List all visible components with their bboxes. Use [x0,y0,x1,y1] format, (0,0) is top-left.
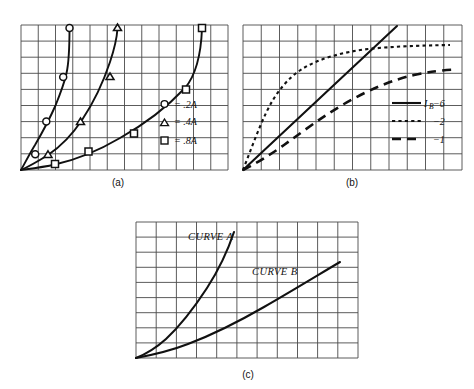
legend-circle-marker [161,101,168,108]
square-marker [85,148,92,155]
panel-c-chart: CURVE A CURVE B [110,200,366,370]
panel-c: CURVE A CURVE B [110,200,366,370]
panel-a-chart: = .2A = .4A = .8A [0,0,236,178]
panel-b-grid [243,25,462,170]
panel-a-caption: (a) [88,177,148,188]
figure-root: = .2A = .4A = .8A (a) [0,0,474,389]
square-marker [131,130,138,137]
curve-a-line [136,232,234,358]
legend-label-ib-main: I [423,98,428,109]
circle-marker [60,74,67,81]
legend-square-marker [161,137,168,144]
curve-b-label: CURVE B [252,266,298,277]
square-marker [199,25,206,32]
panel-b: I B −6 −2 −1 [236,0,474,178]
curve-08a-markers [52,25,206,168]
circle-marker [66,25,73,32]
panel-c-grid [136,222,358,358]
panel-a-legend [161,101,169,144]
curve-02a [21,29,70,171]
panel-c-caption: (c) [218,369,278,380]
panel-b-caption: (b) [322,177,382,188]
legend-label-02a: = .2A [174,99,198,110]
legend-label-ib-tail: −6 [433,98,445,109]
circle-marker [32,151,39,158]
legend-label-minus-1: −1 [433,134,445,145]
curve-b-line [136,262,340,358]
triangle-marker [44,151,52,158]
legend-label-08a: = .8A [174,135,198,146]
circle-marker [43,118,50,125]
panel-b-legend [392,103,421,139]
panel-a-legend-text: = .2A = .4A = .8A [174,99,198,147]
legend-label-04a: = .4A [174,116,198,127]
panel-a: = .2A = .4A = .8A [0,0,236,178]
panel-a-grid [21,25,228,170]
square-marker [52,161,59,168]
panel-b-chart: I B −6 −2 −1 [236,0,474,178]
legend-triangle-marker [161,119,169,126]
curve-minus-1 [243,70,456,171]
legend-label-minus-2: −2 [433,116,445,127]
curve-a-label: CURVE A [188,231,233,242]
square-marker [183,86,190,93]
